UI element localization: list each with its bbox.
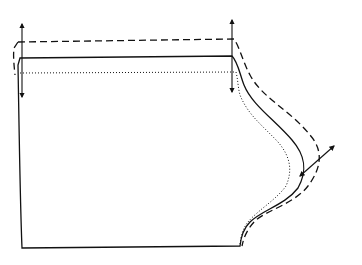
enlarged-outline [14,39,320,246]
pattern-svg [0,0,362,265]
reduced-outline [20,72,290,244]
pattern-diagram [0,0,362,265]
original-outline [18,56,304,248]
